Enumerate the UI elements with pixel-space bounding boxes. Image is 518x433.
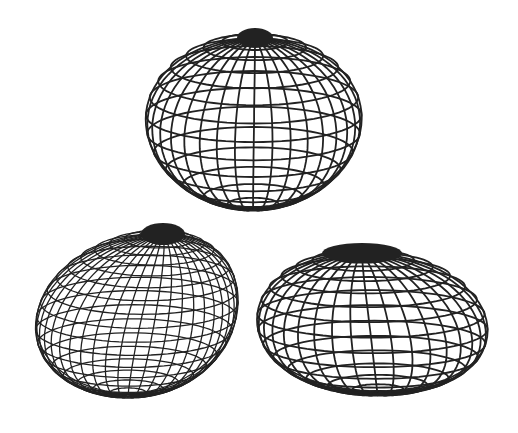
parallel-line: [41, 277, 239, 328]
wireframe-figure: [0, 0, 518, 433]
wireframe-top: [146, 28, 362, 211]
wireframe-bottom-left: [36, 223, 239, 398]
pole-cap: [237, 28, 273, 48]
parallel-line: [38, 319, 226, 368]
meridian-line: [332, 253, 378, 395]
wireframe-bottom-right: [257, 243, 488, 396]
pole-cap: [141, 223, 185, 245]
pole-cap: [322, 243, 402, 263]
